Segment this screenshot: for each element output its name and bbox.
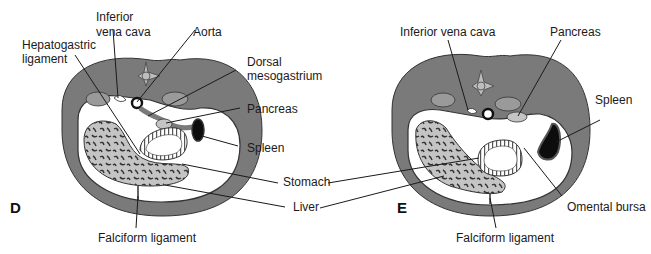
kidney-right	[162, 92, 188, 106]
panel-e: Inferior vena cava Pancreas Spleen Oment…	[320, 25, 646, 245]
spleen	[192, 119, 204, 141]
label-hepatogastric-line2: ligament	[22, 52, 68, 66]
label-falciform-e: Falciform ligament	[456, 231, 555, 245]
label-pancreas-d: Pancreas	[247, 102, 298, 116]
label-dorsal-line2: mesogastrium	[247, 69, 322, 83]
panel-letter-e: E	[397, 199, 407, 216]
pancreas	[507, 112, 527, 122]
label-ivc-line2: vena cava	[96, 25, 151, 39]
label-dorsal-line1: Dorsal	[247, 55, 282, 69]
embryo-cross-section-diagram: Inferior vena cava Aorta Hepatogastric l…	[0, 0, 651, 254]
label-ivc-line1: Inferior	[96, 10, 133, 24]
kidney-right	[495, 97, 521, 111]
label-liver: Liver	[293, 200, 319, 214]
label-spleen-d: Spleen	[247, 141, 284, 155]
panel-letter-d: D	[10, 199, 21, 216]
label-hepatogastric-line1: Hepatogastric	[22, 38, 96, 52]
label-omental-bursa: Omental bursa	[567, 200, 646, 214]
aorta	[483, 109, 493, 119]
label-aorta: Aorta	[193, 25, 222, 39]
kidney-left	[86, 92, 110, 106]
label-falciform-d: Falciform ligament	[98, 231, 197, 245]
kidney-left	[431, 93, 455, 107]
label-ivc-e: Inferior vena cava	[400, 25, 496, 39]
label-spleen-e: Spleen	[595, 93, 632, 107]
label-pancreas-e: Pancreas	[550, 25, 601, 39]
panel-d: Inferior vena cava Aorta Hepatogastric l…	[10, 10, 322, 245]
label-stomach: Stomach	[283, 175, 330, 189]
aorta	[132, 98, 142, 108]
